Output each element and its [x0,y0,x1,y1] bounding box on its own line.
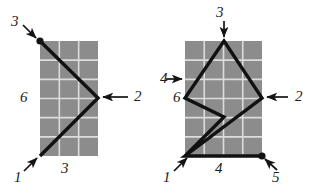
left-endpoint-dot [36,37,43,44]
right-label-5-bottom: 5 [272,170,280,185]
left-label-2-right: 2 [134,89,142,104]
diagram-canvas [0,0,321,193]
right-label-4-left: 4 [160,71,168,86]
left-grid-diagram [23,25,128,171]
arrow-to-1-bottom [24,158,37,171]
arrow-to-3-top [23,25,36,38]
left-label-1-bottom: 1 [14,170,22,185]
right-grid-diagram [166,21,288,171]
left-label-3-bottom: 3 [61,161,69,176]
right-label-6-left: 6 [173,90,181,105]
right-endpoint-dot [258,152,265,159]
right-label-3-top: 3 [216,5,224,20]
right-label-4-bottom: 4 [215,161,223,176]
right-label-1-bottom: 1 [163,170,171,185]
figure-root: 32631 3246415 [0,0,321,193]
right-label-2-right: 2 [295,89,303,104]
arrow-to-1-bottom [174,158,187,171]
left-label-6-left: 6 [20,90,28,105]
left-label-3-top: 3 [11,14,19,29]
